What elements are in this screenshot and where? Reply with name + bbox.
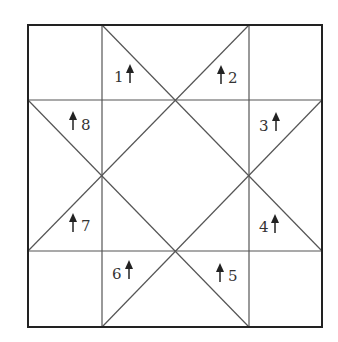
piece-label-3: 3 bbox=[259, 117, 269, 135]
piece-label-7: 7 bbox=[81, 217, 91, 235]
piece-label-2: 2 bbox=[228, 69, 238, 87]
piece-5: 5 bbox=[216, 263, 238, 285]
arrow-up-icon bbox=[69, 213, 77, 232]
piece-1: 1 bbox=[114, 64, 134, 86]
diagonal-2 bbox=[28, 25, 249, 251]
arrow-up-icon bbox=[271, 214, 279, 233]
piece-7: 7 bbox=[69, 213, 91, 235]
piece-label-4: 4 bbox=[259, 218, 269, 236]
quilt-block-diagram: 1 2 3 4 5 6 bbox=[0, 0, 338, 342]
diagonal-lines bbox=[28, 25, 322, 327]
arrow-up-icon bbox=[125, 260, 133, 279]
piece-6: 6 bbox=[112, 260, 133, 283]
diagonal-4 bbox=[102, 100, 322, 327]
arrow-up-icon bbox=[217, 65, 225, 84]
diagonal-1 bbox=[102, 25, 322, 251]
piece-4: 4 bbox=[259, 214, 279, 236]
arrow-up-icon bbox=[69, 111, 77, 130]
arrow-up-icon bbox=[272, 112, 280, 131]
piece-label-6: 6 bbox=[112, 265, 122, 283]
piece-label-8: 8 bbox=[81, 116, 91, 134]
piece-2: 2 bbox=[217, 65, 238, 87]
outer-border bbox=[28, 25, 322, 327]
arrow-up-icon bbox=[126, 64, 134, 83]
piece-8: 8 bbox=[69, 111, 91, 134]
arrow-up-icon bbox=[216, 263, 224, 282]
piece-label-5: 5 bbox=[228, 267, 238, 285]
piece-3: 3 bbox=[259, 112, 280, 135]
piece-label-1: 1 bbox=[114, 68, 124, 86]
diagonal-3 bbox=[28, 100, 249, 327]
grid-lines bbox=[28, 25, 322, 327]
